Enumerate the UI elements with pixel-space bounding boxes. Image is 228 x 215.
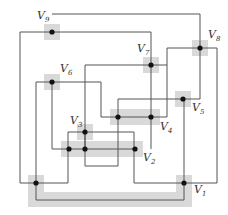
vertex-label-v9: V9 bbox=[37, 9, 50, 24]
vertex-label-v2: V2 bbox=[143, 151, 156, 166]
vertex-label-v7: V7 bbox=[137, 42, 150, 57]
vertex-v5 bbox=[180, 96, 185, 101]
label-layer: V1V2V3V4V5V6V7V8V9 bbox=[37, 9, 221, 198]
vertex-label-v5: V5 bbox=[192, 101, 205, 116]
vertex-label-v4: V4 bbox=[160, 120, 172, 135]
junction-dot bbox=[66, 146, 71, 151]
vertex-v7 bbox=[148, 62, 153, 67]
vertex-v1 bbox=[181, 180, 186, 185]
junction-dot bbox=[33, 180, 38, 185]
junction-dot bbox=[82, 146, 87, 151]
vertex-v6 bbox=[49, 79, 54, 84]
vertex-v2 bbox=[132, 146, 137, 151]
vertex-label-v1: V1 bbox=[194, 183, 206, 198]
vertex-label-v3: V3 bbox=[70, 114, 83, 129]
vertex-label-v6: V6 bbox=[60, 62, 73, 77]
junction-dot bbox=[115, 114, 120, 119]
vertex-v3 bbox=[82, 129, 87, 134]
graph-diagram: V1V2V3V4V5V6V7V8V9 bbox=[0, 0, 228, 215]
vertex-label-v8: V8 bbox=[208, 28, 221, 43]
vertex-v4 bbox=[148, 114, 153, 119]
vertex-v8 bbox=[197, 45, 202, 50]
vertex-v9 bbox=[49, 29, 54, 34]
